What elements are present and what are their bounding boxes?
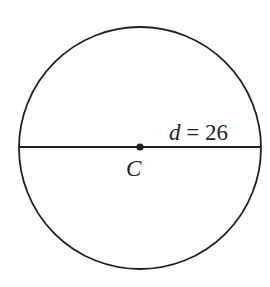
equals-sign: = (181, 120, 205, 145)
circle-diagram: C d = 26 (0, 0, 270, 287)
diameter-value: 26 (205, 120, 228, 145)
center-label: C (126, 156, 142, 181)
diameter-variable: d (169, 120, 181, 145)
center-point (136, 143, 143, 150)
diameter-label: d = 26 (169, 120, 228, 145)
